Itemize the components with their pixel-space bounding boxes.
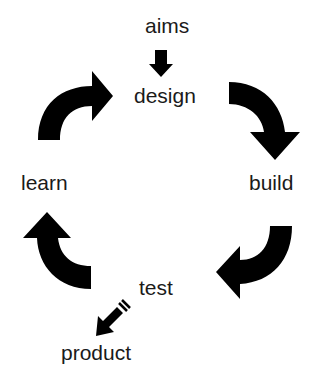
node-aims: aims: [145, 15, 189, 37]
curved-arrow-bottom-left-icon: [23, 212, 91, 289]
arrow-down-icon: [149, 50, 173, 77]
curved-arrow-top-left-icon: [38, 71, 113, 140]
node-product: product: [61, 342, 131, 364]
curved-arrow-bottom-right-icon: [216, 226, 292, 299]
node-test: test: [139, 277, 173, 299]
node-learn: learn: [21, 172, 68, 194]
arrow-down-left-icon: [96, 300, 130, 336]
curved-arrow-top-right-icon: [229, 82, 300, 160]
node-design: design: [134, 85, 196, 107]
node-build: build: [249, 172, 293, 194]
